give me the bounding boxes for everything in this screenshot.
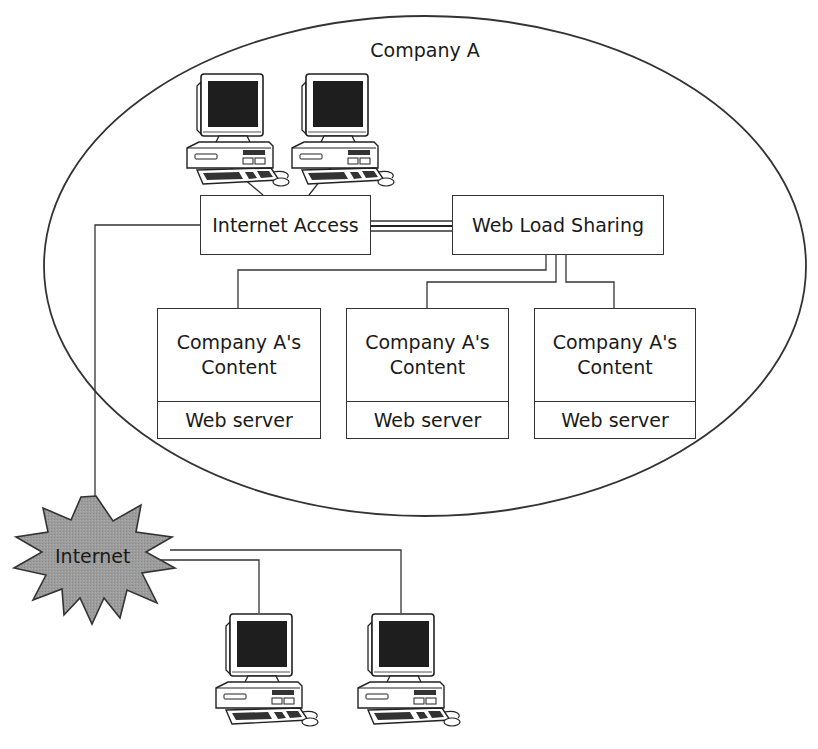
- web-load-sharing-label: Web Load Sharing: [453, 196, 663, 254]
- external-client-1: [216, 614, 318, 726]
- server-role-1: Web server: [158, 402, 320, 438]
- content-line-1: Company A's: [365, 330, 490, 355]
- internet-label: Internet: [55, 545, 130, 567]
- server-content-1: Company A's Content: [158, 309, 320, 402]
- web-server-box-2: Company A's Content Web server: [346, 308, 509, 439]
- web-server-box-1: Company A's Content Web server: [157, 308, 321, 439]
- content-line-2: Content: [390, 355, 466, 380]
- content-line-2: Content: [577, 355, 653, 380]
- content-line-2: Content: [201, 355, 277, 380]
- internet-access-box: Internet Access: [200, 195, 371, 255]
- internal-client-2: [292, 74, 394, 186]
- server-role-2: Web server: [347, 402, 508, 438]
- internal-client-1: [187, 74, 289, 186]
- company-label: Company A: [340, 38, 510, 62]
- company-boundary-ellipse: [44, 16, 806, 516]
- internet-access-label: Internet Access: [201, 196, 370, 254]
- web-server-box-3: Company A's Content Web server: [534, 308, 696, 439]
- server-content-3: Company A's Content: [535, 309, 695, 402]
- server-content-2: Company A's Content: [347, 309, 508, 402]
- content-line-1: Company A's: [553, 330, 678, 355]
- content-line-1: Company A's: [177, 330, 302, 355]
- external-client-2: [358, 614, 460, 726]
- web-load-sharing-box: Web Load Sharing: [452, 195, 664, 255]
- server-role-3: Web server: [535, 402, 695, 438]
